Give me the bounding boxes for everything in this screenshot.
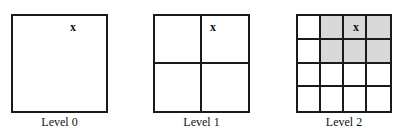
panel-label: Level 1 (153, 115, 250, 130)
grid-cell (344, 64, 367, 88)
grid-cell-shaded (321, 16, 344, 40)
panel-label: Level 0 (11, 115, 108, 130)
grid-cell (367, 87, 390, 111)
panel-label: Level 2 (296, 115, 392, 130)
grid-cell-shaded (344, 40, 367, 64)
grid-cell (298, 64, 321, 88)
grid-cell (367, 64, 390, 88)
grid-cell (13, 16, 106, 111)
grid-level-2 (296, 14, 392, 113)
grid-cell (202, 64, 249, 112)
grid-cell (321, 64, 344, 88)
grid-cell (202, 16, 249, 64)
panel-level-2: x Level 2 (296, 14, 392, 113)
grid-level-1 (153, 14, 250, 113)
grid-cell-shaded (367, 40, 390, 64)
point-x-marker: x (70, 21, 76, 33)
grid-cell (321, 87, 344, 111)
grid-cell-shaded (367, 16, 390, 40)
grid-cell (298, 16, 321, 40)
point-x-marker: x (353, 21, 359, 33)
grid-cell (155, 64, 202, 112)
panel-level-1: x Level 1 (153, 14, 250, 113)
grid-cell (155, 16, 202, 64)
grid-cell (298, 40, 321, 64)
point-x-marker: x (210, 21, 216, 33)
grid-cell (344, 87, 367, 111)
grid-cell-shaded (321, 40, 344, 64)
panel-level-0: x Level 0 (11, 14, 108, 113)
grid-level-0 (11, 14, 108, 113)
grid-cell (298, 87, 321, 111)
